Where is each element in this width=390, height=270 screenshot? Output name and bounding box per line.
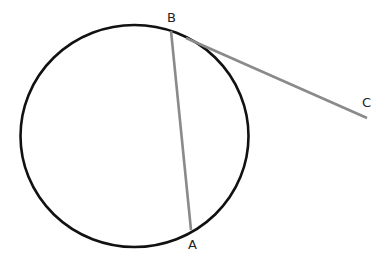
chord-ba: [171, 31, 191, 230]
tangent-bc: [186, 38, 367, 118]
point-label-c: C: [362, 95, 371, 110]
point-label-a: A: [188, 237, 197, 252]
circle: [21, 25, 249, 247]
geometry-figure: B A C: [0, 0, 390, 270]
point-label-b: B: [167, 10, 176, 25]
diagram-canvas: B A C: [0, 0, 390, 270]
